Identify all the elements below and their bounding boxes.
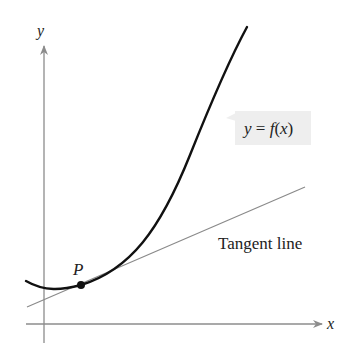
curve-label-callout: y = f(x) [226,111,311,145]
curve-f [26,27,247,289]
tangent-diagram: y x P y = f(x) y = f(x) Tangent line [0,0,360,359]
curve-label: y = f(x) [242,119,293,138]
tangent-label: Tangent line [218,234,302,253]
point-p-label: P [72,260,83,279]
y-axis-label: y [35,22,45,40]
point-p [77,281,85,289]
x-axis-label: x [326,315,334,332]
